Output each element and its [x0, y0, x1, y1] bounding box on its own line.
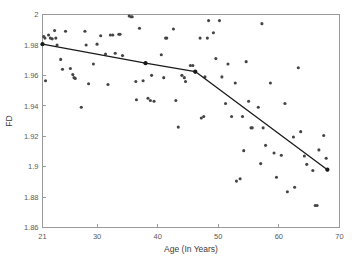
data-point	[257, 106, 260, 109]
y-tick-label: 2	[34, 10, 38, 19]
figure-container: 1.861.881.91.921.941.961.982 21304050607…	[0, 0, 352, 263]
data-point	[172, 27, 175, 30]
data-point	[142, 79, 145, 82]
data-point	[74, 77, 77, 80]
y-tick-label: 1.94	[24, 102, 39, 111]
data-point	[149, 99, 152, 102]
data-point	[71, 73, 74, 76]
data-point	[160, 53, 163, 56]
trend-vertex-marker	[143, 61, 147, 65]
data-point	[138, 27, 141, 30]
y-tick-label: 1.98	[24, 41, 39, 50]
data-point	[191, 64, 194, 67]
x-axis-ticks: 213040506070	[38, 224, 343, 241]
data-point	[80, 106, 83, 109]
data-point	[272, 151, 275, 154]
data-point	[269, 81, 272, 84]
data-point	[44, 79, 47, 82]
trend-line-group	[40, 42, 329, 172]
data-points-group	[42, 14, 329, 207]
data-point	[106, 83, 109, 86]
data-point	[61, 68, 64, 71]
axes-frame	[43, 15, 340, 228]
data-point	[286, 190, 289, 193]
data-point	[114, 52, 117, 55]
data-point	[135, 98, 138, 101]
data-point	[259, 162, 262, 165]
x-tick-label: 30	[93, 232, 101, 241]
data-point	[152, 100, 155, 103]
data-point	[293, 186, 296, 189]
y-tick-label: 1.96	[24, 71, 39, 80]
data-point	[199, 37, 202, 40]
data-point	[184, 80, 187, 83]
data-point	[234, 81, 237, 84]
data-point	[87, 82, 90, 85]
data-point	[69, 67, 72, 70]
data-point	[43, 37, 46, 40]
x-axis-title: Age (In Years)	[164, 244, 218, 254]
data-point	[239, 177, 242, 180]
data-point	[92, 62, 95, 65]
data-point	[241, 115, 244, 118]
data-point	[121, 54, 124, 57]
data-point	[299, 130, 302, 133]
data-point	[146, 97, 149, 100]
data-point	[262, 126, 265, 129]
data-point	[165, 37, 168, 40]
trend-vertex-marker	[40, 42, 44, 46]
data-point	[53, 29, 56, 32]
data-point	[85, 43, 88, 46]
data-point	[83, 30, 86, 33]
data-point	[214, 57, 217, 60]
y-axis-title: FD	[4, 115, 14, 126]
data-point	[131, 15, 134, 18]
data-point	[220, 75, 223, 78]
data-point	[283, 102, 286, 105]
data-point	[96, 43, 99, 46]
data-point	[235, 180, 238, 183]
data-point	[202, 115, 205, 118]
data-point	[230, 115, 233, 118]
data-point	[316, 204, 319, 207]
data-point	[206, 37, 209, 40]
data-point	[226, 62, 229, 65]
y-tick-label: 1.86	[24, 223, 39, 232]
data-point	[119, 33, 122, 36]
data-point	[317, 148, 320, 151]
data-point	[275, 176, 278, 179]
data-point	[322, 134, 325, 137]
data-point	[325, 157, 328, 160]
data-point	[212, 31, 215, 34]
x-tick-label: 21	[38, 232, 46, 241]
data-point	[218, 19, 221, 22]
data-point	[134, 80, 137, 83]
data-point	[99, 34, 102, 37]
x-tick-label: 60	[275, 232, 283, 241]
data-point	[177, 126, 180, 129]
data-point	[280, 154, 283, 157]
data-point	[183, 76, 186, 79]
y-tick-label: 1.9	[28, 162, 38, 171]
trend-vertex-marker	[193, 69, 197, 73]
data-point	[305, 163, 308, 166]
trend-line	[43, 44, 328, 170]
data-point	[251, 126, 254, 129]
data-point	[150, 74, 153, 77]
data-point	[111, 33, 114, 36]
data-point	[297, 66, 300, 69]
data-point	[264, 144, 267, 147]
data-point	[47, 33, 50, 36]
data-point	[180, 74, 183, 77]
data-point	[260, 22, 263, 25]
data-point	[247, 100, 250, 103]
data-point	[303, 154, 306, 157]
data-point	[162, 76, 165, 79]
data-point	[311, 169, 314, 172]
data-point	[51, 37, 54, 40]
data-point	[174, 99, 177, 102]
data-point	[59, 58, 62, 61]
data-point	[54, 37, 57, 40]
data-point	[64, 30, 67, 33]
y-tick-label: 1.92	[24, 132, 39, 141]
